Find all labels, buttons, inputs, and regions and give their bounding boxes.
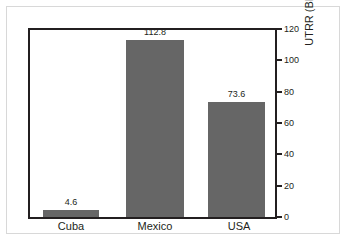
category-label: Cuba: [31, 220, 111, 233]
category-label: USA: [199, 220, 279, 233]
chart-figure: 020406080100120 4.6112.873.6 CubaMexicoU…: [6, 6, 340, 234]
value-axis-title: UTRR (BBOE): [303, 0, 315, 65]
bar-value-label: 112.8: [126, 28, 184, 37]
category-label: Mexico: [111, 220, 199, 233]
bar: [43, 210, 99, 217]
bar-value-label: 73.6: [208, 90, 265, 99]
bar-value-label: 4.6: [43, 198, 99, 207]
bar: [208, 102, 265, 217]
bars-layer: 4.6112.873.6: [7, 7, 348, 218]
bar: [126, 40, 184, 217]
